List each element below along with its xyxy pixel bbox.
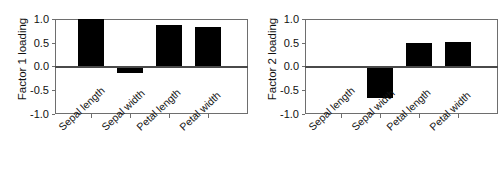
x-tick-mark xyxy=(380,114,381,118)
bar-petal-length xyxy=(406,43,432,66)
y-tick-label: 0.0 xyxy=(21,60,49,72)
y-tick-label: -0.5 xyxy=(271,84,299,96)
x-tick-mark xyxy=(130,114,131,118)
y-tick-label: -0.5 xyxy=(21,84,49,96)
y-tick-label: 1.0 xyxy=(271,13,299,25)
y-tick-label: -1.0 xyxy=(271,108,299,120)
x-tick-mark xyxy=(208,114,209,118)
x-tick-mark xyxy=(458,114,459,118)
factor-loadings-figure: Factor 1 loading 1.0 0.5 0.0 -0.5 -1.0 xyxy=(0,0,500,181)
chart-panel-factor-1: Factor 1 loading 1.0 0.5 0.0 -0.5 -1.0 xyxy=(0,0,250,181)
y-tick-label: 1.0 xyxy=(21,13,49,25)
y-tick-mark xyxy=(302,114,305,115)
x-tick-mark xyxy=(419,114,420,118)
chart-panel-factor-2: Factor 2 loading 1.0 0.5 0.0 -0.5 -1.0 xyxy=(250,0,500,181)
bar-petal-width xyxy=(195,27,221,66)
bar-sepal-length xyxy=(78,19,104,67)
y-tick-mark xyxy=(52,114,55,115)
bar-petal-length xyxy=(156,25,182,66)
x-tick-mark xyxy=(169,114,170,118)
y-tick-label: 0.0 xyxy=(271,60,299,72)
zero-baseline xyxy=(55,66,248,68)
x-tick-mark xyxy=(341,114,342,118)
zero-baseline xyxy=(305,66,498,68)
y-tick-label: -1.0 xyxy=(21,108,49,120)
x-tick-mark xyxy=(91,114,92,118)
y-tick-label: 0.5 xyxy=(21,37,49,49)
bar-petal-width xyxy=(445,42,471,66)
y-tick-label: 0.5 xyxy=(271,37,299,49)
